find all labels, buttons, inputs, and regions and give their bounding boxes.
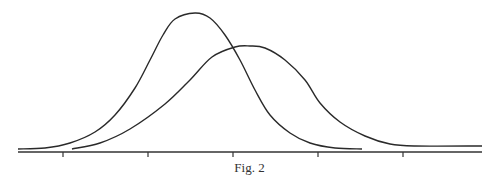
figure-caption: Fig. 2 (0, 160, 499, 176)
curve-a-line (18, 13, 362, 149)
curve-b-line (72, 46, 482, 149)
